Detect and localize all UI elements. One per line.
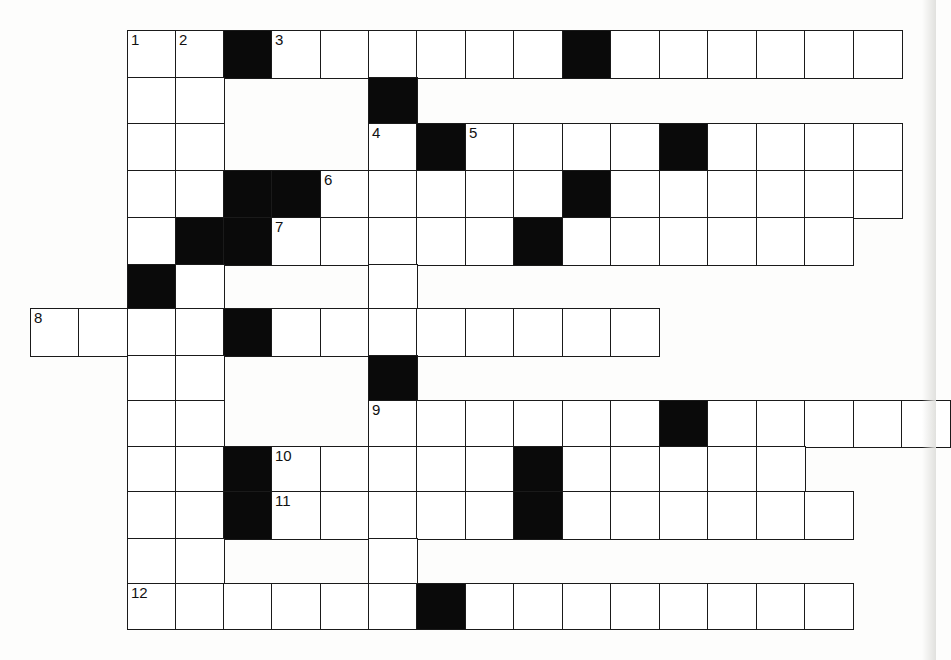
answer-cell[interactable] — [416, 491, 466, 540]
answer-cell[interactable] — [175, 538, 225, 585]
answer-cell[interactable] — [562, 123, 612, 172]
answer-cell[interactable] — [610, 308, 660, 357]
answer-cell[interactable] — [175, 77, 225, 125]
answer-cell[interactable] — [513, 170, 563, 219]
answer-cell[interactable] — [804, 170, 854, 219]
answer-cell[interactable] — [465, 217, 515, 266]
answer-cell[interactable] — [416, 446, 466, 493]
answer-cell[interactable] — [853, 170, 903, 219]
answer-cell[interactable] — [368, 538, 418, 585]
answer-cell[interactable] — [610, 491, 660, 540]
answer-cell[interactable] — [513, 123, 563, 172]
answer-cell[interactable] — [804, 491, 854, 540]
answer-cell[interactable] — [659, 446, 709, 493]
answer-cell[interactable] — [756, 583, 806, 630]
answer-cell[interactable] — [320, 308, 370, 357]
answer-cell[interactable] — [127, 400, 177, 448]
answer-cell[interactable]: 9 — [368, 400, 418, 448]
answer-cell[interactable] — [804, 583, 854, 630]
answer-cell[interactable] — [416, 170, 466, 219]
answer-cell[interactable] — [368, 170, 418, 219]
answer-cell[interactable] — [223, 583, 273, 630]
answer-cell[interactable] — [127, 123, 177, 172]
answer-cell[interactable]: 3 — [271, 30, 321, 79]
answer-cell[interactable] — [465, 491, 515, 540]
answer-cell[interactable] — [175, 491, 225, 540]
answer-cell[interactable] — [756, 446, 806, 493]
answer-cell[interactable]: 12 — [127, 583, 177, 630]
answer-cell[interactable] — [853, 30, 903, 79]
answer-cell[interactable] — [271, 308, 321, 357]
answer-cell[interactable]: 8 — [30, 308, 80, 357]
answer-cell[interactable] — [853, 123, 903, 172]
answer-cell[interactable] — [707, 217, 757, 266]
answer-cell[interactable] — [804, 30, 854, 79]
answer-cell[interactable] — [756, 217, 806, 266]
answer-cell[interactable] — [610, 446, 660, 493]
answer-cell[interactable] — [127, 170, 177, 219]
answer-cell[interactable] — [562, 446, 612, 493]
answer-cell[interactable] — [756, 30, 806, 79]
answer-cell[interactable] — [271, 583, 321, 630]
answer-cell[interactable] — [707, 123, 757, 172]
answer-cell[interactable] — [610, 400, 660, 448]
answer-cell[interactable] — [610, 583, 660, 630]
answer-cell[interactable] — [804, 400, 854, 448]
answer-cell[interactable] — [610, 123, 660, 172]
answer-cell[interactable] — [465, 446, 515, 493]
answer-cell[interactable] — [175, 400, 225, 448]
answer-cell[interactable] — [127, 77, 177, 125]
answer-cell[interactable] — [127, 446, 177, 493]
answer-cell[interactable]: 11 — [271, 491, 321, 540]
answer-cell[interactable] — [804, 123, 854, 172]
answer-cell[interactable] — [707, 400, 757, 448]
answer-cell[interactable] — [707, 583, 757, 630]
answer-cell[interactable] — [465, 170, 515, 219]
answer-cell[interactable] — [175, 170, 225, 219]
answer-cell[interactable] — [320, 491, 370, 540]
answer-cell[interactable] — [707, 446, 757, 493]
answer-cell[interactable] — [320, 30, 370, 79]
answer-cell[interactable] — [562, 491, 612, 540]
answer-cell[interactable] — [127, 217, 177, 266]
answer-cell[interactable] — [320, 583, 370, 630]
answer-cell[interactable] — [368, 491, 418, 540]
answer-cell[interactable] — [368, 308, 418, 357]
answer-cell[interactable] — [562, 583, 612, 630]
answer-cell[interactable]: 4 — [368, 123, 418, 172]
answer-cell[interactable] — [465, 400, 515, 448]
answer-cell[interactable] — [320, 446, 370, 493]
answer-cell[interactable] — [707, 170, 757, 219]
answer-cell[interactable] — [416, 217, 466, 266]
answer-cell[interactable] — [416, 400, 466, 448]
answer-cell[interactable] — [175, 355, 225, 402]
answer-cell[interactable]: 2 — [175, 30, 225, 79]
answer-cell[interactable] — [659, 583, 709, 630]
answer-cell[interactable] — [853, 400, 903, 448]
answer-cell[interactable] — [127, 355, 177, 402]
answer-cell[interactable] — [368, 583, 418, 630]
answer-cell[interactable] — [127, 308, 177, 357]
answer-cell[interactable] — [562, 217, 612, 266]
answer-cell[interactable] — [78, 308, 128, 357]
answer-cell[interactable] — [513, 400, 563, 448]
answer-cell[interactable] — [756, 400, 806, 448]
answer-cell[interactable] — [416, 30, 466, 79]
answer-cell[interactable] — [416, 308, 466, 357]
answer-cell[interactable] — [368, 217, 418, 266]
answer-cell[interactable] — [513, 583, 563, 630]
answer-cell[interactable] — [562, 400, 612, 448]
answer-cell[interactable] — [175, 446, 225, 493]
answer-cell[interactable] — [513, 308, 563, 357]
answer-cell[interactable] — [562, 308, 612, 357]
answer-cell[interactable] — [175, 264, 225, 310]
answer-cell[interactable]: 10 — [271, 446, 321, 493]
answer-cell[interactable]: 1 — [127, 30, 177, 79]
answer-cell[interactable] — [659, 491, 709, 540]
answer-cell[interactable] — [127, 538, 177, 585]
answer-cell[interactable] — [368, 446, 418, 493]
answer-cell[interactable]: 5 — [465, 123, 515, 172]
answer-cell[interactable] — [756, 123, 806, 172]
answer-cell[interactable] — [175, 123, 225, 172]
answer-cell[interactable] — [804, 217, 854, 266]
